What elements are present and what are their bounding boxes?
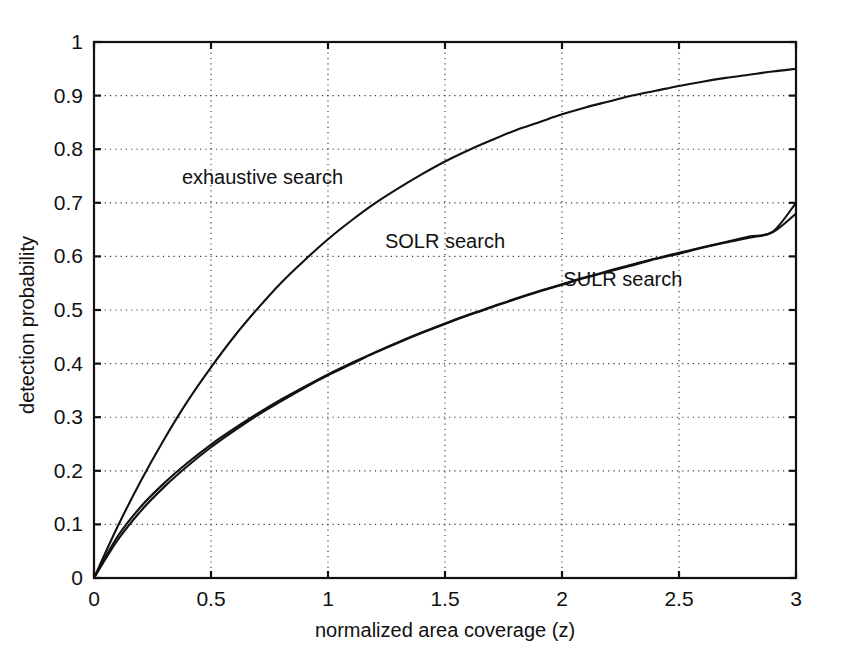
y-tick-label: 0 xyxy=(71,566,83,589)
x-tick-label: 2 xyxy=(556,587,568,610)
detection-probability-chart: 00.511.522.53 00.10.20.30.40.50.60.70.80… xyxy=(0,0,842,658)
y-tick-label: 0.7 xyxy=(54,191,83,214)
x-tick-label: 1 xyxy=(322,587,334,610)
y-axis-title: detection probability xyxy=(16,236,38,414)
y-tick-label: 1 xyxy=(71,30,83,53)
x-tick-label: 0.5 xyxy=(196,587,225,610)
y-tick-label: 0.6 xyxy=(54,244,83,267)
chart-background xyxy=(0,0,842,658)
y-tick-label: 0.8 xyxy=(54,137,83,160)
x-tick-label: 2.5 xyxy=(664,587,693,610)
y-tick-label: 0.1 xyxy=(54,512,83,535)
figure-container: 00.511.522.53 00.10.20.30.40.50.60.70.80… xyxy=(0,0,842,658)
x-tick-label: 0 xyxy=(88,587,100,610)
x-tick-label: 3 xyxy=(790,587,802,610)
annotation-exhaustive-search: exhaustive search xyxy=(182,166,343,188)
annotation-solr-search: SOLR search xyxy=(385,230,505,252)
annotation-sulr-search: SULR search xyxy=(563,268,682,290)
y-tick-label: 0.2 xyxy=(54,459,83,482)
y-tick-label: 0.9 xyxy=(54,84,83,107)
y-tick-label: 0.3 xyxy=(54,405,83,428)
y-tick-label: 0.4 xyxy=(54,352,84,375)
y-tick-label: 0.5 xyxy=(54,298,83,321)
x-tick-label: 1.5 xyxy=(430,587,459,610)
x-axis-title: normalized area coverage (z) xyxy=(315,619,575,641)
